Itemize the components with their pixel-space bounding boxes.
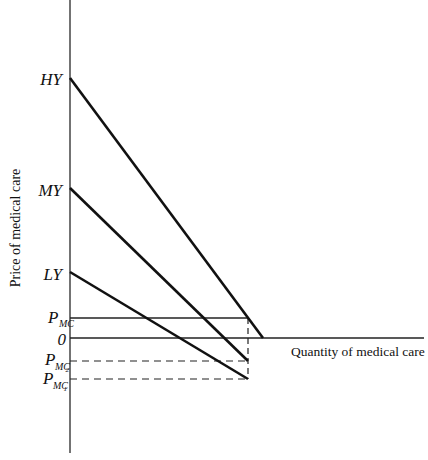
svg-text:MC: MC <box>58 318 74 329</box>
label-my: MY <box>37 181 63 200</box>
svg-text:P: P <box>44 350 55 369</box>
svg-text:1: 1 <box>64 385 68 393</box>
svg-text:P: P <box>47 308 58 327</box>
svg-text:2: 2 <box>66 366 70 374</box>
label-pmc1: P MC 1 <box>42 369 68 393</box>
label-hy: HY <box>39 70 63 89</box>
demand-line-middle-income <box>70 188 248 361</box>
y-axis-title: Price of medical care <box>8 169 23 288</box>
demand-line-low-income <box>70 272 248 379</box>
medical-care-demand-diagram: HY MY LY P MC 0 P MC 2 P MC 1 Price of m… <box>0 0 428 460</box>
svg-text:P: P <box>42 369 53 388</box>
x-axis-title: Quantity of medical care <box>291 344 425 359</box>
label-ly: LY <box>42 265 63 284</box>
demand-line-high-income <box>70 78 263 338</box>
label-zero: 0 <box>58 330 67 349</box>
